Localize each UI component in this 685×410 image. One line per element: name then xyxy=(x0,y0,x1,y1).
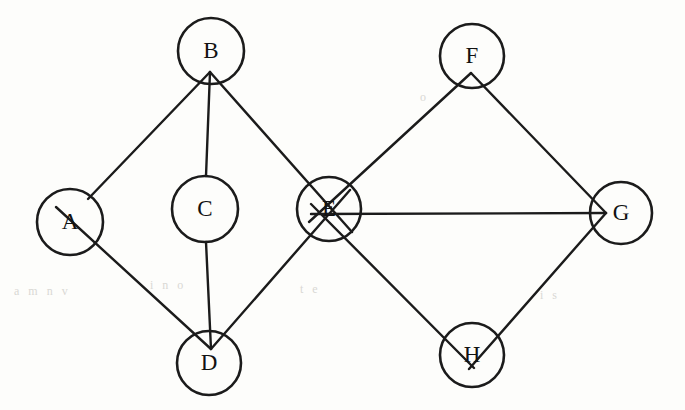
node-a-label: A xyxy=(62,209,79,234)
node-g-label: G xyxy=(613,200,630,225)
node-h-label: H xyxy=(464,342,481,367)
diagram-canvas: a m n v i n o t e i s o A B xyxy=(0,0,685,410)
node-e[interactable]: E xyxy=(297,177,361,241)
node-c-label: C xyxy=(197,196,212,221)
node-f-label: F xyxy=(466,43,479,68)
edge-layer xyxy=(56,72,606,369)
edge-e-g xyxy=(311,213,606,214)
edge-g-h xyxy=(469,213,606,369)
graph-svg: A B C D E F G xyxy=(0,0,685,410)
edge-a-d xyxy=(56,207,211,349)
edge-b-c xyxy=(206,72,210,176)
edge-e-h xyxy=(311,204,474,368)
node-e-label: E xyxy=(322,196,336,221)
node-c[interactable]: C xyxy=(172,176,238,242)
node-h[interactable]: H xyxy=(440,323,504,387)
node-d[interactable]: D xyxy=(177,331,241,395)
node-a[interactable]: A xyxy=(37,189,103,255)
node-d-label: D xyxy=(201,350,218,375)
node-layer: A B C D E F G xyxy=(37,18,652,395)
edge-f-g xyxy=(471,73,606,213)
edge-c-d xyxy=(206,242,211,349)
node-b-label: B xyxy=(203,38,218,63)
node-f[interactable]: F xyxy=(440,24,504,88)
